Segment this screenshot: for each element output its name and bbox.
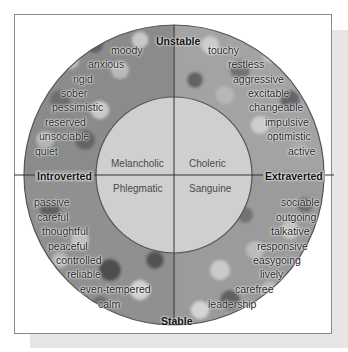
trait-word: passive: [34, 196, 70, 208]
trait-word: reserved: [45, 116, 86, 128]
axis-label-extraverted: Extraverted: [263, 170, 325, 182]
trait-word: outgoing: [276, 211, 316, 223]
trait-word: quiet: [35, 145, 58, 157]
trait-word: peaceful: [48, 240, 88, 252]
trait-word: touchy: [208, 44, 239, 56]
trait-word: calm: [98, 298, 120, 310]
trait-word: responsive: [257, 240, 308, 252]
trait-word: pessimistic: [52, 101, 103, 113]
temperament-choleric: Choleric: [189, 158, 226, 170]
trait-word: reliable: [67, 268, 101, 280]
trait-word: sociable: [281, 196, 320, 208]
trait-word: thoughtful: [42, 225, 88, 237]
trait-word: rigid: [73, 73, 93, 85]
trait-word: restless: [228, 58, 264, 70]
axis-label-introverted: Introverted: [35, 170, 94, 182]
trait-word: anxious: [88, 58, 124, 70]
trait-word: lively: [260, 268, 283, 280]
temperament-sanguine: Sanguine: [189, 183, 231, 195]
trait-word: leadership: [208, 298, 256, 310]
trait-word: unsociable: [39, 130, 89, 142]
trait-word: active: [288, 145, 315, 157]
trait-word: careful: [37, 211, 69, 223]
trait-word: easygoing: [253, 254, 301, 266]
trait-word: aggressive: [233, 73, 284, 85]
trait-word: excitable: [248, 87, 289, 99]
temperament-melancholic: Melancholic: [111, 158, 164, 170]
trait-word: moody: [111, 44, 143, 56]
axis-label-unstable: Unstable: [156, 35, 200, 47]
axis-label-stable: Stable: [161, 315, 193, 327]
trait-word: sober: [61, 87, 87, 99]
temperament-phlegmatic: Phlegmatic: [113, 183, 162, 195]
trait-word: talkative: [271, 225, 310, 237]
trait-word: carefree: [235, 283, 274, 295]
trait-word: changeable: [249, 101, 303, 113]
trait-word: impulsive: [265, 116, 309, 128]
trait-word: optimistic: [267, 130, 311, 142]
trait-word: controlled: [56, 254, 102, 266]
trait-word: even-tempered: [80, 283, 151, 295]
